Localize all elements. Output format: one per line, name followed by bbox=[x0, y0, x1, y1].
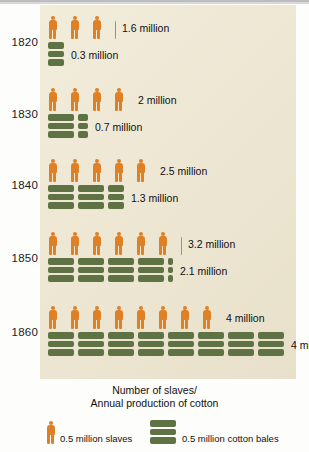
cotton-bales-value-label: 4 million bbox=[291, 339, 309, 351]
person-icon bbox=[48, 15, 57, 39]
person-icon bbox=[70, 15, 79, 39]
person-icon bbox=[70, 231, 79, 255]
slaves-icon-group bbox=[48, 305, 224, 331]
person-icon bbox=[92, 15, 101, 39]
cotton-bale-icon bbox=[228, 332, 254, 356]
cotton-bales-value-label: 0.7 million bbox=[95, 121, 142, 133]
person-icon bbox=[114, 305, 123, 329]
person-icon bbox=[48, 231, 57, 255]
person-icon-partial bbox=[114, 15, 116, 39]
person-icon bbox=[136, 158, 145, 182]
legend-label-cotton-bales: 0.5 million cotton bales bbox=[182, 433, 279, 444]
person-icon bbox=[48, 87, 57, 111]
person-icon bbox=[158, 231, 167, 255]
cotton-bale-icon bbox=[198, 332, 224, 356]
slaves-icon-group bbox=[48, 231, 202, 257]
slaves-value-label: 2.5 million bbox=[160, 165, 207, 177]
person-icon bbox=[70, 305, 79, 329]
person-icon bbox=[92, 87, 101, 111]
person-icon bbox=[48, 305, 57, 329]
person-icon bbox=[70, 87, 79, 111]
cotton-bale-icon bbox=[108, 258, 134, 282]
cotton-bale-icon-partial bbox=[48, 42, 64, 66]
person-icon bbox=[114, 158, 123, 182]
legend-item-slaves: 0.5 million slaves bbox=[46, 418, 166, 446]
year-label-1850: 1850 bbox=[2, 252, 38, 264]
cotton-bale-icon bbox=[138, 258, 164, 282]
person-icon bbox=[48, 158, 57, 182]
slaves-value-label: 3.2 million bbox=[188, 238, 235, 250]
person-icon bbox=[136, 305, 145, 329]
cotton-bale-icon bbox=[48, 258, 74, 282]
person-icon bbox=[158, 305, 167, 329]
chart-legend: 0.5 million slaves 0.5 million cotton ba… bbox=[0, 418, 309, 448]
person-icon bbox=[70, 158, 79, 182]
cotton-bales-icon-group bbox=[48, 185, 138, 211]
cotton-bales-icon-group bbox=[48, 332, 288, 358]
cotton-bales-value-label: 0.3 million bbox=[71, 49, 118, 61]
scan-edge-strip bbox=[0, 0, 309, 4]
cotton-bale-icon-partial bbox=[108, 185, 124, 209]
person-icon bbox=[92, 158, 101, 182]
person-icon bbox=[114, 231, 123, 255]
year-label-1830: 1830 bbox=[2, 108, 38, 120]
legend-label-slaves: 0.5 million slaves bbox=[60, 433, 132, 444]
year-label-1860: 1860 bbox=[2, 326, 38, 338]
chart-title-line2: Annual production of cotton bbox=[0, 397, 309, 410]
cotton-bales-value-label: 2.1 million bbox=[180, 265, 227, 277]
slaves-value-label: 1.6 million bbox=[122, 22, 169, 34]
slaves-icon-group bbox=[48, 87, 136, 113]
cotton-bale-icon bbox=[108, 332, 134, 356]
cotton-bale-icon bbox=[48, 114, 74, 138]
cotton-bale-icon bbox=[78, 258, 104, 282]
person-icon bbox=[180, 305, 189, 329]
person-icon-partial bbox=[180, 231, 182, 255]
year-label-1820: 1820 bbox=[2, 36, 38, 48]
cotton-bale-icon bbox=[48, 332, 74, 356]
cotton-bale-icon bbox=[78, 185, 104, 209]
cotton-bale-icon-partial bbox=[168, 258, 173, 282]
legend-item-cotton-bales: 0.5 million cotton bales bbox=[150, 418, 309, 446]
person-icon bbox=[114, 87, 123, 111]
chart-root: 1.6 million0.3 million2 million0.7 milli… bbox=[0, 0, 309, 452]
person-icon bbox=[46, 420, 55, 444]
slaves-value-label: 2 million bbox=[138, 94, 177, 106]
cotton-bales-icon-group bbox=[48, 258, 198, 284]
person-icon bbox=[92, 305, 101, 329]
cotton-bale-icon-partial bbox=[78, 114, 88, 138]
person-icon bbox=[202, 305, 211, 329]
cotton-bales-value-label: 1.3 million bbox=[131, 192, 178, 204]
cotton-bale-icon bbox=[138, 332, 164, 356]
person-icon bbox=[92, 231, 101, 255]
chart-panel: 1.6 million0.3 million2 million0.7 milli… bbox=[40, 5, 296, 379]
chart-title: Number of slaves/ Annual production of c… bbox=[0, 384, 309, 410]
year-label-1840: 1840 bbox=[2, 179, 38, 191]
cotton-bale-icon bbox=[150, 420, 176, 444]
cotton-bale-icon bbox=[78, 332, 104, 356]
scan-edge-strip-inner bbox=[0, 0, 309, 2]
slaves-icon-group bbox=[48, 158, 158, 184]
cotton-bale-icon bbox=[168, 332, 194, 356]
slaves-value-label: 4 million bbox=[226, 312, 265, 324]
chart-title-line1: Number of slaves/ bbox=[0, 384, 309, 397]
person-icon bbox=[136, 231, 145, 255]
cotton-bale-icon bbox=[48, 185, 74, 209]
cotton-bale-icon bbox=[258, 332, 284, 356]
